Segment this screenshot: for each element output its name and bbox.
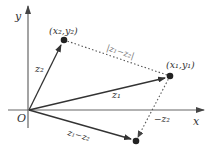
neg-z2-label: −z₂ [154,114,170,124]
z2-coord-label: (x₂,y₂) [49,25,78,36]
z1-coord-label: (x₁,y₁) [166,59,195,70]
vector-z2 [29,45,61,110]
complex-plane-diagram: y x O (x₂,y₂) (x₁,y₁) z₂ z₁ z₁−z₂ |z₁−z₂… [0,0,212,157]
z1-vector-label: z₁ [111,89,121,100]
diff-vector-label: z₁−z₂ [66,127,92,143]
point-z2 [61,37,68,44]
origin-label: O [17,112,26,125]
z2-vector-label: z₂ [34,63,44,74]
point-z1-minus-z2 [133,138,140,145]
vector-z1 [29,78,165,110]
x-axis-label: x [193,115,200,128]
point-z1 [167,73,174,80]
y-axis-label: y [14,10,22,23]
neg-z2-dotted-line [138,76,170,137]
